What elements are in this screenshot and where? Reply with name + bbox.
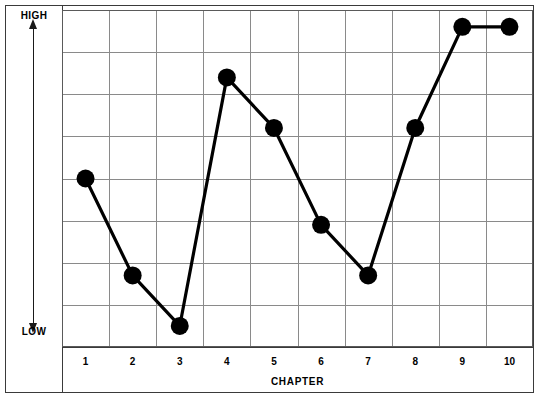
data-point-marker: [218, 68, 236, 86]
x-axis-tick-label: 10: [489, 356, 529, 367]
data-point-marker: [77, 170, 95, 188]
x-axis-tick-label: 2: [113, 356, 153, 367]
chart-figure: HIGH LOW 12345678910 CHAPTER: [0, 0, 540, 399]
data-point-marker: [406, 119, 424, 137]
y-axis-double-arrow-icon: [33, 28, 34, 324]
data-point-marker: [500, 18, 518, 36]
x-axis-tick-label: 7: [348, 356, 388, 367]
data-point-marker: [124, 266, 142, 284]
data-point-marker: [312, 216, 330, 234]
x-axis-tick-label: 3: [160, 356, 200, 367]
data-point-marker: [265, 119, 283, 137]
x-axis-tick-label: 8: [395, 356, 435, 367]
series-line: [86, 27, 510, 326]
x-axis-tick-label: 4: [207, 356, 247, 367]
x-axis-title: CHAPTER: [62, 376, 533, 387]
x-axis-tick-label: 1: [66, 356, 106, 367]
data-point-marker: [171, 317, 189, 335]
x-axis-tick-label: 6: [301, 356, 341, 367]
x-axis-tick-label: 9: [442, 356, 482, 367]
y-axis-scale-indicator: HIGH LOW: [6, 6, 62, 347]
data-point-marker: [359, 266, 377, 284]
plot-area: [62, 10, 533, 347]
x-axis-tick-label: 5: [254, 356, 294, 367]
line-series: [62, 10, 533, 347]
data-point-marker: [453, 18, 471, 36]
y-axis-low-label: LOW: [6, 326, 62, 337]
x-axis: 12345678910 CHAPTER: [62, 347, 533, 393]
